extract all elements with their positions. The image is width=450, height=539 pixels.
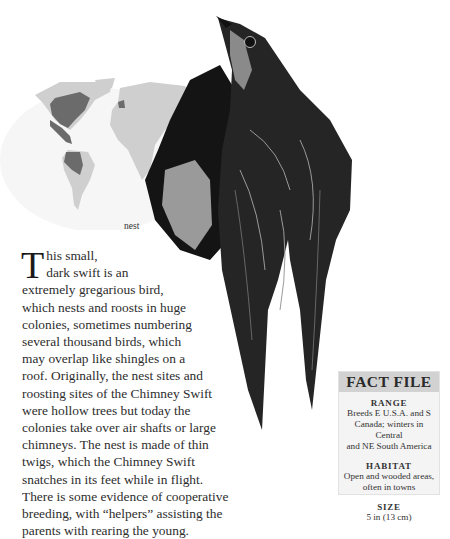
fact-range-title: RANGE (339, 398, 439, 408)
fact-file-title: FACT FILE (339, 372, 439, 392)
nest-caption: nest (124, 221, 139, 231)
article-line: which nests and roosts in huge (22, 299, 227, 316)
article-line: colonies, sometimes numbering (22, 316, 227, 333)
article-line: twigs, which the Chimney Swift (22, 453, 227, 470)
fact-habitat-body: Open and wooded areas, often in towns (339, 471, 439, 493)
article-line: snatches in its feet while in flight. (22, 471, 227, 488)
drop-cap: T (21, 250, 44, 280)
article-line: breeding, with “helpers” assisting the (22, 505, 227, 522)
fact-habitat-line: often in towns (340, 482, 438, 493)
fact-size-body: 5 in (13 cm) (339, 512, 439, 523)
fact-file-box: FACT FILE RANGE Breeds E U.S.A. and S Ca… (338, 371, 440, 495)
article-line: roosting sites of the Chimney Swift (22, 385, 227, 402)
fact-range-line: Canada; winters in Central (340, 419, 438, 441)
fact-size-title: SIZE (339, 502, 439, 512)
article-line: parents with rearing the young. (22, 522, 227, 539)
article-line: There is some evidence of cooperative (22, 488, 227, 505)
fact-habitat-title: HABITAT (339, 461, 439, 471)
fact-habitat-line: Open and wooded areas, (340, 471, 438, 482)
fact-range-body: Breeds E U.S.A. and S Canada; winters in… (339, 408, 439, 452)
article-line: may overlap like shingles on a (22, 350, 227, 367)
article-line: his small, (22, 247, 227, 264)
article-line: were hollow trees but today the (22, 402, 227, 419)
article-line: several thousand birds, which (22, 333, 227, 350)
article-line: roof. Originally, the nest sites and (22, 367, 227, 384)
fact-range-line: Breeds E U.S.A. and S (340, 408, 438, 419)
article-line: chimneys. The nest is made of thin (22, 436, 227, 453)
fact-range-line: and NE South America (340, 441, 438, 452)
article-line: extremely gregarious bird, (22, 281, 227, 298)
article-body: T his small, dark swift is an extremely … (22, 247, 227, 539)
article-line: dark swift is an (22, 264, 227, 281)
article-line: colonies take over air shafts or large (22, 419, 227, 436)
fact-size-line: 5 in (13 cm) (340, 512, 438, 523)
